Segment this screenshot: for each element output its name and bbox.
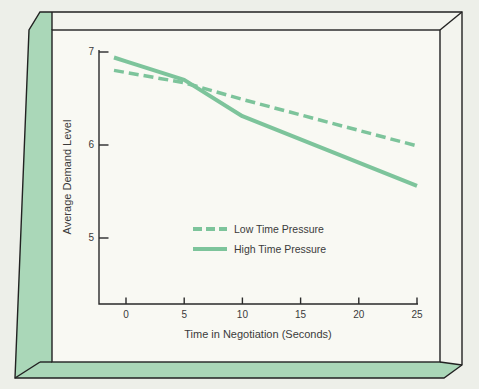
legend: Low Time Pressure High Time Pressure: [193, 219, 326, 259]
y-axis-title: Average Demand Level: [61, 120, 73, 235]
box-bottom-face: [15, 362, 462, 378]
y-tick-label: 6: [88, 140, 94, 150]
x-tick-label: 10: [237, 310, 248, 320]
box-top-face: [40, 12, 462, 30]
legend-label: Low Time Pressure: [234, 223, 324, 235]
legend-item-low-time-pressure: Low Time Pressure: [193, 219, 326, 239]
x-tick-label: 25: [411, 310, 422, 320]
solid-line-swatch: [193, 247, 227, 251]
textbook-figure: 0510152025765 Average Demand Level Time …: [0, 0, 479, 389]
x-tick-label: 20: [353, 310, 364, 320]
dashed-line-swatch: [193, 227, 227, 231]
box-left-face: [15, 12, 52, 378]
box-right-face: [440, 12, 462, 365]
x-axis-title: Time in Negotiation (Seconds): [99, 328, 417, 340]
y-tick-label: 7: [88, 47, 94, 57]
legend-label: High Time Pressure: [234, 243, 326, 255]
y-tick-label: 5: [88, 233, 94, 243]
x-tick-label: 0: [123, 310, 129, 320]
legend-item-high-time-pressure: High Time Pressure: [193, 239, 326, 259]
x-tick-label: 15: [295, 310, 306, 320]
x-tick-label: 5: [181, 310, 187, 320]
